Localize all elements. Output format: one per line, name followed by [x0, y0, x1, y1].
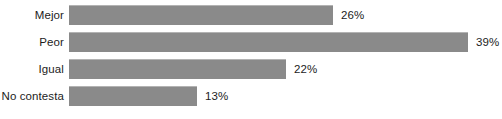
bar-igual: [69, 59, 286, 79]
bar-peor: [69, 32, 468, 52]
category-label-igual: Igual: [0, 59, 64, 79]
horizontal-bar-chart: Mejor 26% Peor 39% Igual 22% No contesta…: [0, 0, 502, 119]
category-label-mejor: Mejor: [0, 5, 64, 25]
chart-row: Peor 39%: [0, 32, 502, 52]
category-label-peor: Peor: [0, 32, 64, 52]
value-label-igual: 22%: [294, 59, 317, 79]
value-label-peor: 39%: [476, 32, 499, 52]
category-label-no-contesta: No contesta: [0, 86, 64, 106]
chart-row: Igual 22%: [0, 59, 502, 79]
bar-mejor: [69, 5, 333, 25]
value-label-no-contesta: 13%: [205, 86, 228, 106]
chart-row: No contesta 13%: [0, 86, 502, 106]
chart-row: Mejor 26%: [0, 5, 502, 25]
bar-no-contesta: [69, 86, 197, 106]
value-label-mejor: 26%: [341, 5, 364, 25]
